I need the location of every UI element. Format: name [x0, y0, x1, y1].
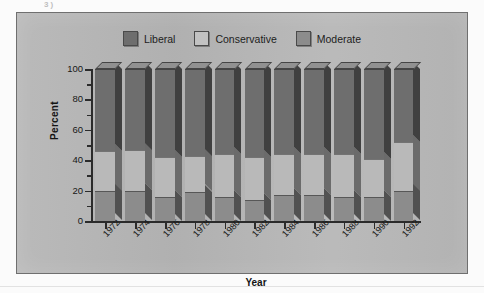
chart-page: 3) Liberal Conservative Moderate Percent… [0, 0, 484, 293]
bar-group [93, 69, 421, 221]
bar-segment-1972-conservative[interactable] [95, 151, 115, 191]
bar-segment-1974-moderate[interactable] [125, 191, 145, 221]
bar-1990[interactable] [364, 69, 391, 221]
bar-1980[interactable] [215, 69, 242, 221]
bar-side-1974-conservative [145, 142, 152, 190]
bar-side-1978-liberal [205, 62, 212, 156]
bar-side-1986-liberal [324, 62, 331, 154]
bar-segment-1982-moderate[interactable] [245, 200, 265, 221]
bar-segment-1978-liberal[interactable] [185, 69, 205, 156]
legend-item-conservative[interactable]: Conservative [194, 31, 276, 46]
y-tick-label-0: 0 [55, 215, 83, 226]
bar-segment-1988-moderate[interactable] [334, 197, 354, 221]
y-tick-70 [87, 115, 91, 117]
bar-side-1980-liberal [234, 62, 241, 154]
bar-side-1988-conservative [354, 147, 361, 197]
y-tick-60 [85, 130, 91, 132]
y-tick-20 [85, 191, 91, 193]
bar-segment-1978-moderate[interactable] [185, 192, 205, 221]
bar-side-1976-liberal [175, 62, 182, 157]
bar-segment-1980-conservative[interactable] [215, 154, 235, 197]
bar-1992[interactable] [394, 69, 421, 221]
bar-side-1974-liberal [145, 62, 152, 150]
y-tick-0 [85, 221, 91, 223]
y-tick-50 [87, 145, 91, 147]
bar-segment-1974-liberal[interactable] [125, 69, 145, 150]
y-tick-80 [85, 99, 91, 101]
bar-side-1990-conservative [384, 152, 391, 197]
legend-item-moderate[interactable]: Moderate [296, 31, 361, 46]
bar-segment-1980-moderate[interactable] [215, 197, 235, 221]
y-tick-100 [85, 69, 91, 71]
bar-segment-1972-liberal[interactable] [95, 69, 115, 151]
x-axis-title: Year [91, 277, 421, 288]
bar-segment-1972-moderate[interactable] [95, 191, 115, 221]
bar-segment-1982-conservative[interactable] [245, 157, 265, 200]
bar-side-1990-liberal [384, 62, 391, 159]
bar-segment-1974-conservative[interactable] [125, 150, 145, 191]
y-tick-label-60: 60 [55, 124, 83, 135]
bar-segment-1990-liberal[interactable] [364, 69, 384, 159]
y-tick-40 [85, 160, 91, 162]
bar-segment-1992-conservative[interactable] [394, 142, 414, 191]
bar-1976[interactable] [155, 69, 182, 221]
bar-1978[interactable] [185, 69, 212, 221]
bar-segment-1986-liberal[interactable] [304, 69, 324, 154]
bar-segment-1988-conservative[interactable] [334, 154, 354, 197]
bar-segment-1990-conservative[interactable] [364, 159, 384, 197]
chart-figure-panel: Liberal Conservative Moderate Percent Ye… [16, 12, 468, 274]
bar-segment-1986-moderate[interactable] [304, 195, 324, 221]
bar-segment-1984-moderate[interactable] [274, 195, 294, 221]
bar-segment-1990-moderate[interactable] [364, 197, 384, 221]
y-tick-label-40: 40 [55, 154, 83, 165]
bar-segment-1988-liberal[interactable] [334, 69, 354, 154]
plot-area: Percent Year 020406080100 19721974197619… [91, 69, 421, 225]
bar-side-1984-liberal [294, 62, 301, 154]
bar-segment-1984-conservative[interactable] [274, 154, 294, 195]
y-tick-10 [87, 206, 91, 208]
bar-1984[interactable] [274, 69, 301, 221]
bar-side-1982-liberal [264, 62, 271, 157]
bar-side-1972-liberal [115, 62, 122, 151]
y-tick-label-100: 100 [55, 63, 83, 74]
bar-segment-1976-liberal[interactable] [155, 69, 175, 157]
bar-1988[interactable] [334, 69, 361, 221]
legend-swatch-moderate [296, 31, 311, 46]
chart-legend: Liberal Conservative Moderate [17, 31, 467, 46]
legend-label-moderate: Moderate [317, 33, 361, 45]
legend-swatch-conservative [194, 31, 209, 46]
scan-artifact-text: 3) [44, 0, 104, 9]
bar-segment-1982-liberal[interactable] [245, 69, 265, 157]
bar-1972[interactable] [95, 69, 122, 221]
bar-segment-1978-conservative[interactable] [185, 156, 205, 192]
legend-swatch-liberal [123, 31, 138, 46]
y-tick-label-80: 80 [55, 93, 83, 104]
bar-1974[interactable] [125, 69, 152, 221]
bar-segment-1980-liberal[interactable] [215, 69, 235, 154]
bar-1986[interactable] [304, 69, 331, 221]
bar-1982[interactable] [245, 69, 272, 221]
bar-segment-1976-conservative[interactable] [155, 157, 175, 197]
y-tick-30 [87, 175, 91, 177]
bar-side-1986-conservative [324, 147, 331, 195]
bar-segment-1992-moderate[interactable] [394, 191, 414, 221]
bar-side-1988-liberal [354, 62, 361, 154]
bar-segment-1976-moderate[interactable] [155, 197, 175, 221]
bar-segment-1984-liberal[interactable] [274, 69, 294, 154]
bar-segment-1992-liberal[interactable] [394, 69, 414, 142]
y-tick-label-20: 20 [55, 185, 83, 196]
legend-item-liberal[interactable]: Liberal [123, 31, 176, 46]
bar-side-1992-liberal [413, 62, 420, 142]
legend-label-liberal: Liberal [144, 33, 176, 45]
y-tick-90 [87, 84, 91, 86]
legend-label-conservative: Conservative [215, 33, 276, 45]
bar-side-1992-conservative [413, 135, 420, 191]
bar-segment-1986-conservative[interactable] [304, 154, 324, 195]
